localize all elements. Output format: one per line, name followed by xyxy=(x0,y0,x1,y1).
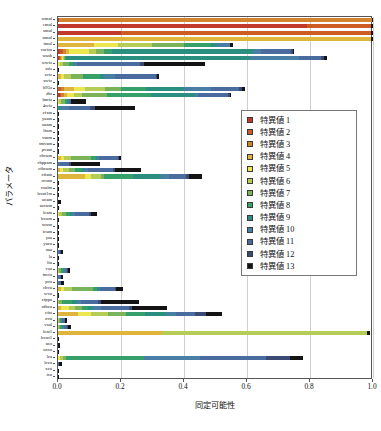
bar-row[interactable] xyxy=(58,62,205,66)
bar-segment[interactable] xyxy=(211,87,239,91)
bar-row[interactable] xyxy=(58,24,373,28)
bar-segment[interactable] xyxy=(132,306,167,310)
bar-row[interactable] xyxy=(58,118,59,122)
bar-segment[interactable] xyxy=(58,137,59,141)
bar-row[interactable] xyxy=(58,56,327,60)
bar-row[interactable] xyxy=(58,275,63,279)
bar-segment[interactable] xyxy=(261,49,291,53)
legend-item[interactable]: 特異値 12 xyxy=(247,248,352,260)
bar-row[interactable] xyxy=(58,81,59,85)
bar-row[interactable] xyxy=(58,300,139,304)
bar-segment[interactable] xyxy=(58,131,59,135)
bar-segment[interactable] xyxy=(58,143,59,147)
bar-segment[interactable] xyxy=(266,356,290,360)
bar-segment[interactable] xyxy=(65,318,67,322)
bar-segment[interactable] xyxy=(95,106,136,110)
legend-box[interactable]: 特異値 1特異値 2特異値 3特異値 4特異値 5特異値 6特異値 7特異値 8… xyxy=(241,110,357,276)
bar-segment[interactable] xyxy=(176,312,195,316)
bar-segment[interactable] xyxy=(133,174,161,178)
bar-segment[interactable] xyxy=(198,93,228,97)
bar-row[interactable] xyxy=(58,218,59,222)
bar-segment[interactable] xyxy=(169,174,186,178)
bar-row[interactable] xyxy=(58,168,141,172)
bar-segment[interactable] xyxy=(167,312,176,316)
bar-row[interactable] xyxy=(58,268,70,272)
bar-segment[interactable] xyxy=(58,118,59,122)
bar-segment[interactable] xyxy=(151,93,195,97)
bar-segment[interactable] xyxy=(307,24,372,28)
bar-row[interactable] xyxy=(58,343,60,347)
bar-segment[interactable] xyxy=(59,18,373,22)
legend-item[interactable]: 特異値 4 xyxy=(247,151,352,163)
bar-segment[interactable] xyxy=(152,43,184,47)
bar-row[interactable] xyxy=(58,287,123,291)
bar-row[interactable] xyxy=(58,143,59,147)
legend-item[interactable]: 特異値 5 xyxy=(247,163,352,175)
bar-segment[interactable] xyxy=(81,300,98,304)
bar-segment[interactable] xyxy=(299,56,321,60)
bar-row[interactable] xyxy=(58,312,222,316)
bar-row[interactable] xyxy=(58,350,59,354)
bar-row[interactable] xyxy=(58,200,61,204)
bar-segment[interactable] xyxy=(372,18,373,22)
bar-segment[interactable] xyxy=(58,37,371,41)
bar-segment[interactable] xyxy=(112,49,254,53)
bar-row[interactable] xyxy=(58,18,373,22)
legend-item[interactable]: 特異値 1 xyxy=(247,114,352,126)
bar-row[interactable] xyxy=(58,43,233,47)
bar-segment[interactable] xyxy=(96,49,104,53)
bar-segment[interactable] xyxy=(58,193,59,197)
bar-segment[interactable] xyxy=(58,24,307,28)
bar-segment[interactable] xyxy=(146,87,184,91)
bar-row[interactable] xyxy=(58,99,86,103)
bar-segment[interactable] xyxy=(200,356,266,360)
bar-segment[interactable] xyxy=(58,68,59,72)
bar-row[interactable] xyxy=(58,49,294,53)
legend-item[interactable]: 特異値 6 xyxy=(247,175,352,187)
legend-item[interactable]: 特異値 13 xyxy=(247,260,352,272)
bar-segment[interactable] xyxy=(64,287,72,291)
bar-segment[interactable] xyxy=(293,49,295,53)
bar-segment[interactable] xyxy=(100,287,114,291)
bar-segment[interactable] xyxy=(121,31,371,35)
bar-segment[interactable] xyxy=(69,49,89,53)
bar-segment[interactable] xyxy=(74,87,85,91)
bar-segment[interactable] xyxy=(144,62,205,66)
bar-segment[interactable] xyxy=(59,362,62,366)
bar-row[interactable] xyxy=(58,131,59,135)
bar-segment[interactable] xyxy=(82,93,107,97)
bar-row[interactable] xyxy=(58,162,100,166)
bar-row[interactable] xyxy=(58,369,59,373)
bar-segment[interactable] xyxy=(58,200,61,204)
bar-segment[interactable] xyxy=(116,287,122,291)
bar-segment[interactable] xyxy=(324,56,327,60)
bar-row[interactable] xyxy=(58,37,373,41)
bar-segment[interactable] xyxy=(78,312,91,316)
bar-segment[interactable] xyxy=(253,49,261,53)
bar-row[interactable] xyxy=(58,256,59,260)
bar-segment[interactable] xyxy=(66,356,143,360)
bar-segment[interactable] xyxy=(60,106,69,110)
bar-segment[interactable] xyxy=(371,31,373,35)
bar-segment[interactable] xyxy=(108,312,125,316)
bar-segment[interactable] xyxy=(230,93,232,97)
bar-row[interactable] xyxy=(58,137,59,141)
bar-segment[interactable] xyxy=(64,87,73,91)
bar-row[interactable] xyxy=(58,187,59,191)
bar-row[interactable] xyxy=(58,281,64,285)
bar-row[interactable] xyxy=(58,293,59,297)
legend-item[interactable]: 特異値 7 xyxy=(247,187,352,199)
bar-segment[interactable] xyxy=(371,37,373,41)
bar-segment[interactable] xyxy=(162,331,367,335)
bar-segment[interactable] xyxy=(104,74,115,78)
bar-row[interactable] xyxy=(58,243,59,247)
bar-row[interactable] xyxy=(58,74,159,78)
bar-segment[interactable] xyxy=(371,24,373,28)
bar-segment[interactable] xyxy=(58,174,85,178)
bar-segment[interactable] xyxy=(118,43,153,47)
bar-segment[interactable] xyxy=(58,350,59,354)
bar-row[interactable] xyxy=(58,318,67,322)
bar-segment[interactable] xyxy=(91,212,97,216)
bar-segment[interactable] xyxy=(105,87,121,91)
bar-segment[interactable] xyxy=(58,337,59,341)
